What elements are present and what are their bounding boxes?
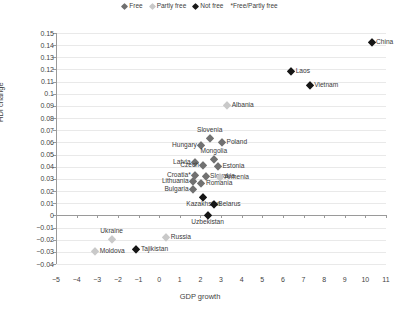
x-tick-label: −2 (114, 276, 122, 283)
x-tick-label: 7 (302, 276, 306, 283)
scatter-chart: FreePartly freeNot free*Free/Partly free… (0, 0, 400, 310)
x-tick-label: 10 (361, 276, 369, 283)
x-tick-label: 1 (178, 276, 182, 283)
x-tick-label: 8 (322, 276, 326, 283)
x-tick-label: −4 (73, 276, 81, 283)
x-tick-label: 6 (281, 276, 285, 283)
x-tick-label: 4 (240, 276, 244, 283)
y-axis-title: HDI change (0, 82, 5, 122)
x-tick-label: 3 (219, 276, 223, 283)
x-tick-label: −5 (52, 276, 60, 283)
x-axis-title: GDP growth (0, 292, 400, 301)
x-tick-label: 0 (157, 276, 161, 283)
x-axis-tick-labels: −5−4−3−2−101234567891011 (0, 0, 400, 310)
x-tick-label: 2 (198, 276, 202, 283)
x-tick-label: 5 (260, 276, 264, 283)
x-tick-label: 11 (382, 276, 389, 283)
x-tick-label: −3 (93, 276, 101, 283)
x-tick-label: −1 (135, 276, 143, 283)
x-tick-label: 9 (343, 276, 347, 283)
